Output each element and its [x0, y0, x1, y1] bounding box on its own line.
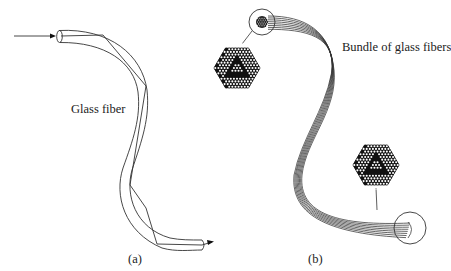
- fiber-dot: [375, 185, 377, 187]
- fiber-dot: [247, 64, 249, 66]
- fiber-dot: [225, 59, 227, 61]
- fiber-dot: [363, 148, 365, 150]
- fiber-dot: [267, 23, 268, 24]
- fiber-dot: [225, 80, 227, 82]
- fiber-dot: [266, 18, 267, 19]
- fiber-dot: [359, 164, 361, 166]
- fiber-dot: [375, 142, 377, 144]
- fiber-dot: [373, 145, 375, 147]
- fiber-dot: [395, 167, 397, 169]
- fiber-dot: [381, 175, 383, 177]
- caption-a: (a): [128, 252, 142, 267]
- fiber-dot: [258, 23, 259, 24]
- fiber-dot: [380, 167, 382, 169]
- fiber-dot: [244, 86, 246, 88]
- fiber-dot: [222, 70, 224, 72]
- panel-a: [14, 30, 214, 250]
- fiber-dot: [224, 67, 226, 69]
- fiber-dot: [373, 140, 375, 142]
- fiber-dot: [258, 67, 260, 69]
- fiber-dot: [394, 159, 396, 161]
- bundle-label: Bundle of glass fibers: [342, 40, 451, 55]
- fiber-dot: [256, 70, 258, 72]
- fiber-dot: [359, 169, 361, 171]
- fiber-dot: [261, 25, 262, 26]
- fiber-dot: [230, 56, 232, 58]
- fiber-dot: [231, 48, 233, 50]
- fiber-dot: [245, 67, 247, 69]
- fiber-dot: [366, 153, 368, 155]
- fiber-dot: [377, 167, 379, 169]
- fiber-dot: [228, 80, 230, 82]
- fiber-dot: [233, 45, 235, 47]
- fiber-dot: [373, 151, 375, 153]
- fiber-dot: [370, 156, 372, 158]
- fiber-dot: [227, 78, 229, 80]
- fiber-dot: [375, 148, 377, 150]
- fiber-dot: [372, 142, 374, 144]
- fiber-dot: [389, 151, 391, 153]
- fiber-dot: [231, 86, 233, 88]
- bundle-strand: [268, 26, 407, 234]
- fiber-dot: [234, 86, 236, 88]
- fiber-dot: [227, 45, 229, 47]
- fiber-dot: [395, 161, 397, 163]
- fiber-dot: [383, 151, 385, 153]
- fiber-dot: [244, 48, 246, 50]
- incoming-arrow-icon: [50, 34, 56, 39]
- fiber-dot: [372, 185, 374, 187]
- fiber-dot: [359, 153, 361, 155]
- fiber-dot: [250, 54, 252, 56]
- fiber-dot: [248, 62, 250, 64]
- fiber-dot: [369, 159, 371, 161]
- fiber-dot: [372, 180, 374, 182]
- bundle-end-face-top: [256, 16, 268, 28]
- fiber-dot: [370, 188, 372, 190]
- bundle-end-face-bottom: [408, 222, 412, 238]
- fiber-dot: [222, 64, 224, 66]
- fiber-dot: [217, 67, 219, 69]
- fiber-dot: [384, 164, 386, 166]
- fiber-dot: [266, 21, 267, 22]
- fiber-dot: [241, 43, 243, 45]
- fiber-dot: [392, 161, 394, 163]
- fiber-dot: [366, 180, 368, 182]
- fiber-dot: [217, 72, 219, 74]
- fiber-dot: [231, 43, 233, 45]
- fiber-dot: [231, 80, 233, 82]
- fiber-dot: [225, 64, 227, 66]
- fiber-dot: [372, 175, 374, 177]
- fiber-dot: [257, 25, 258, 26]
- fiber-dot: [389, 156, 391, 158]
- fiber-dot: [386, 167, 388, 169]
- fiber-dot: [251, 67, 253, 69]
- fiber-dot: [238, 43, 240, 45]
- fiber-dot: [244, 80, 246, 82]
- fiber-dot: [244, 54, 246, 56]
- fiber-dot: [250, 64, 252, 66]
- reflected-ray: [61, 35, 202, 245]
- fiber-dot: [369, 185, 371, 187]
- fiber-dot: [251, 62, 253, 64]
- fiber-dot: [367, 145, 369, 147]
- fiber-dot: [375, 180, 377, 182]
- fiber-dot: [233, 67, 235, 69]
- fiber-dot: [377, 151, 379, 153]
- fiber-dot: [363, 175, 365, 177]
- fiber-dot: [255, 67, 257, 69]
- fiber-dot: [228, 48, 230, 50]
- fiber-dot: [386, 161, 388, 163]
- fiber-dot: [383, 188, 385, 190]
- fiber-dot: [248, 78, 250, 80]
- fiber-dot: [392, 172, 394, 174]
- fiber-dot: [219, 64, 221, 66]
- fiber-dot: [250, 80, 252, 82]
- fiber-dot: [242, 62, 244, 64]
- fiber-dot: [255, 72, 257, 74]
- fiber-dot: [373, 177, 375, 179]
- fiber-dot: [236, 88, 238, 90]
- fiber-dot: [386, 183, 388, 185]
- fiber-dot: [377, 188, 379, 190]
- fiber-dot: [234, 43, 236, 45]
- fiber-dot: [359, 159, 361, 161]
